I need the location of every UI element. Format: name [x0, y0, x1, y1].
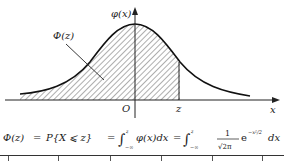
formula-probability: P{X ⩽ z} — [45, 132, 92, 143]
formula-render: Φ(z) = P{X ⩽ z} = ∫ z −∞ φ(x)dx = ∫ z −∞… — [3, 127, 283, 153]
formula-eq3: = — [173, 132, 181, 143]
formula-upper-limit-2: z — [190, 128, 194, 134]
x-axis-label: x — [270, 105, 276, 115]
formula-exp-power: −x²/2 — [248, 129, 262, 135]
origin-label: O — [122, 104, 130, 114]
formula-fraction-denominator: √2π — [218, 143, 232, 151]
table-column-tick — [262, 156, 263, 161]
formula-upper-limit-1: z — [125, 128, 129, 134]
cdf-formula: Φ(z) = P{X ⩽ z} = ∫ z −∞ φ(x)dx = ∫ z −∞… — [3, 127, 283, 153]
area-label: Φ(z) — [53, 31, 74, 41]
table-column-tick — [8, 156, 9, 161]
y-axis-arrow-icon — [132, 7, 138, 15]
formula-eq2: = — [107, 132, 115, 143]
z-tick-label: z — [176, 104, 181, 114]
table-column-tick — [110, 156, 111, 161]
table-column-tick — [58, 156, 59, 161]
formula-lower-limit-2: −∞ — [190, 144, 198, 150]
formula-lower-limit-1: −∞ — [125, 144, 133, 150]
formula-dx: dx — [268, 132, 280, 143]
formula-integrand-1: φ(x)dx — [136, 132, 169, 143]
formula-eq1: = — [33, 132, 41, 143]
table-column-tick — [161, 156, 162, 161]
formula-fraction-numerator: 1 — [225, 129, 230, 138]
table-top-rule — [0, 155, 284, 156]
y-axis-label: φ(x) — [111, 9, 131, 19]
formula-exp-base: e — [241, 132, 247, 143]
formula-lhs: Φ(z) — [3, 132, 24, 143]
x-axis-arrow-icon — [272, 97, 280, 103]
table-column-tick — [212, 156, 213, 161]
